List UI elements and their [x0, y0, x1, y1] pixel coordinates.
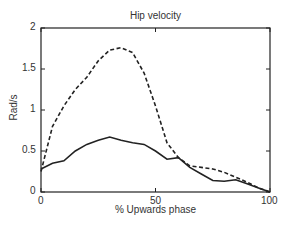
tick-marks	[41, 28, 270, 192]
plot-area	[0, 0, 288, 227]
axes-frame	[41, 28, 270, 192]
solid-series-line	[41, 137, 270, 192]
dashed-series-line	[41, 48, 270, 192]
